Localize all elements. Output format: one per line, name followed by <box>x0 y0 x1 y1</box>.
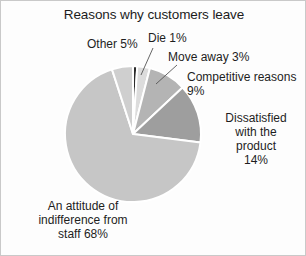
pie-label-attitude-indifference: An attitude of indifference from staff 6… <box>7 199 159 241</box>
pie-label-move-away: Move away 3% <box>168 50 249 64</box>
chart-figure: Reasons why customers leave Other 5% Die… <box>0 0 306 256</box>
pie-label-die: Die 1% <box>148 31 187 45</box>
pie-slice-group <box>65 66 201 202</box>
pie-label-competitive-reasons: Competitive reasons 9% <box>187 70 305 98</box>
pie-label-other: Other 5% <box>87 37 138 51</box>
pie-label-dissatisfied: Dissatisfied with the product 14% <box>211 111 301 167</box>
